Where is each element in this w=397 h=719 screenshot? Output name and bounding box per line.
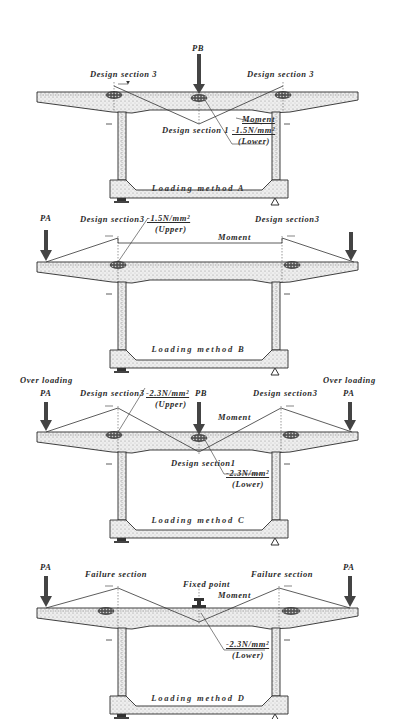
stress-lower-face: (Lower) bbox=[232, 480, 264, 489]
caption-loading-method-a: Loading method A bbox=[0, 183, 397, 193]
stress-face: (Lower) bbox=[232, 651, 264, 660]
stress-value: -1.5N/mm² bbox=[147, 214, 190, 223]
section-label-right: Design section3 bbox=[253, 389, 318, 398]
caption-loading-method-b: Loading method B bbox=[0, 344, 397, 354]
section-label-left: Design section3 bbox=[80, 215, 145, 224]
stress-lower-value: -2.3N/mm² bbox=[226, 469, 269, 478]
panel-loading-method-a: PB Design section 3 Design section 3 Des… bbox=[0, 40, 397, 190]
load-label-pb: PB bbox=[192, 44, 204, 53]
section-label-center: Design section 1 bbox=[162, 126, 229, 135]
load-label-pa-left: PA bbox=[40, 389, 51, 398]
stress-upper-face: (Upper) bbox=[155, 400, 187, 409]
stress-face: (Upper) bbox=[155, 225, 187, 234]
caption-loading-method-c: Loading method C bbox=[0, 515, 397, 525]
fixed-point-label: Fixed point bbox=[183, 580, 230, 589]
bridge-diagram-b bbox=[0, 210, 397, 360]
moment-label: Moment bbox=[218, 591, 251, 600]
panel-loading-method-d: PA Failure section Fixed point Moment Fa… bbox=[0, 560, 397, 719]
moment-label: Moment bbox=[218, 233, 251, 242]
caption-loading-method-d: Loading method D bbox=[0, 693, 397, 703]
section-label-right: Design section 3 bbox=[247, 70, 314, 79]
stress-value: -2.3N/mm² bbox=[226, 640, 269, 649]
load-label-pa-right: PA bbox=[343, 563, 354, 572]
bridge-diagram-a bbox=[0, 40, 397, 190]
panel-loading-method-c: Over loading PA Design section3 -2.3N/mm… bbox=[0, 372, 397, 542]
section-label-left: Failure section bbox=[85, 570, 147, 579]
panel-loading-method-b: PA Design section3 -1.5N/mm² (Upper) Mom… bbox=[0, 210, 397, 360]
overload-label-right: Over loading bbox=[323, 376, 376, 385]
moment-label: Moment bbox=[242, 115, 275, 124]
overload-label-left: Over loading bbox=[20, 376, 73, 385]
load-label-pa-left: PA bbox=[40, 563, 51, 572]
load-label-pa-right: PA bbox=[343, 389, 354, 398]
section-label-center: Design section1 bbox=[171, 459, 236, 468]
section-label-left: Design section3 bbox=[80, 389, 145, 398]
load-label-pb: PB bbox=[195, 389, 207, 398]
load-label-pa: PA bbox=[40, 214, 51, 223]
section-label-right: Design section3 bbox=[255, 215, 320, 224]
moment-label: Moment bbox=[218, 413, 251, 422]
stress-face: (Lower) bbox=[238, 137, 270, 146]
stress-upper-value: -2.3N/mm² bbox=[146, 389, 189, 398]
stress-value: -1.5N/mm² bbox=[232, 126, 275, 135]
section-label-left: Design section 3 bbox=[90, 70, 157, 79]
section-label-right: Failure section bbox=[251, 570, 313, 579]
